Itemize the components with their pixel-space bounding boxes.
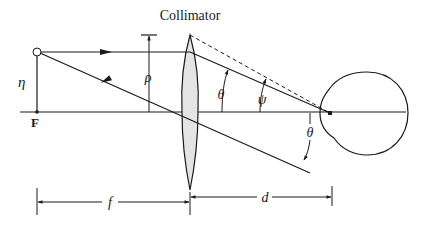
eye-icon (320, 72, 408, 155)
pupil-dot (328, 111, 332, 115)
focal-point-dot (35, 110, 39, 114)
theta-upper-label: θ (218, 87, 225, 102)
object-point-icon (33, 48, 41, 56)
collimator-lens (182, 35, 198, 190)
d-label: d (262, 190, 270, 205)
collimator-title: Collimator (160, 8, 221, 23)
ray-arrow-icon (100, 49, 112, 55)
psi-label: ψ (258, 92, 267, 107)
focal-point-label: F (31, 115, 39, 130)
chief-ray (40, 53, 310, 173)
theta-lower-label: θ (307, 125, 314, 140)
eta-label: η (18, 74, 25, 90)
theta-lower-arc (304, 140, 310, 160)
collimator-diagram: Collimator ρ η F θ ψ θ f d (0, 0, 424, 230)
rho-label: ρ (144, 70, 152, 85)
f-label: f (108, 195, 114, 210)
